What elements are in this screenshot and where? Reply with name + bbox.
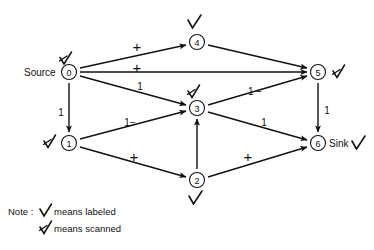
edge-0-3 <box>80 76 186 105</box>
node-6-label: 6 <box>315 139 320 149</box>
graph-canvas: + + 1 1 1− + + 1 − 1 1 0 Source <box>0 0 374 250</box>
node-6[interactable]: 6 Sink <box>311 136 366 151</box>
node-1-label: 1 <box>66 139 71 149</box>
edge-label-0-1: 1 <box>58 107 64 118</box>
note-line2-text: means scanned <box>54 223 121 234</box>
node-1-scanned-icon <box>44 135 56 148</box>
node-4-label: 4 <box>194 38 199 48</box>
node-0-scanned-icon <box>60 52 72 64</box>
node-3[interactable]: 3 <box>188 85 205 116</box>
edge-label-3-6: 1 <box>261 117 267 128</box>
edge-3-6 <box>208 112 307 140</box>
node-5-label: 5 <box>315 68 320 78</box>
node-6-labeled-icon <box>352 136 365 149</box>
edge-4-5 <box>208 45 307 68</box>
node-4-labeled-icon <box>188 15 201 28</box>
node-1[interactable]: 1 <box>44 135 77 151</box>
node-0-side-text: Source <box>24 67 56 78</box>
flow-network-diagram: + + 1 1 1− + + 1 − 1 1 0 Source <box>0 0 374 250</box>
edge-label-0-5: + <box>133 59 142 76</box>
note-labeled-icon <box>40 204 52 216</box>
node-3-scanned-icon <box>188 85 200 98</box>
node-6-side-text: Sink <box>329 138 349 149</box>
note-prefix: Note : <box>8 206 33 217</box>
node-5-scanned-icon <box>333 65 345 78</box>
edge-label-0-4: + <box>133 38 142 55</box>
edge-label-1-2: + <box>130 148 139 165</box>
node-3-label: 3 <box>194 104 199 114</box>
node-2[interactable]: 2 <box>189 173 205 205</box>
edge-2-6 <box>208 147 307 177</box>
edge-label-2-6: + <box>244 148 253 165</box>
node-5[interactable]: 5 <box>311 65 345 80</box>
edge-label-0-3: 1 <box>137 81 143 92</box>
edge-label-3-5: 1 − <box>248 86 262 97</box>
edge-label-1-3: 1− <box>124 117 136 128</box>
node-0[interactable]: 0 Source <box>24 52 77 80</box>
legend-note: Note : means labeled means scanned <box>8 204 121 234</box>
nodes-group: 0 Source 1 2 <box>24 15 365 204</box>
node-0-label: 0 <box>66 68 71 78</box>
node-4[interactable]: 4 <box>188 15 205 50</box>
edge-label-5-6: 1 <box>324 105 330 116</box>
node-2-labeled-icon <box>189 191 202 204</box>
node-2-label: 2 <box>194 176 199 186</box>
note-line1-text: means labeled <box>54 206 116 217</box>
note-scanned-icon <box>40 221 52 234</box>
